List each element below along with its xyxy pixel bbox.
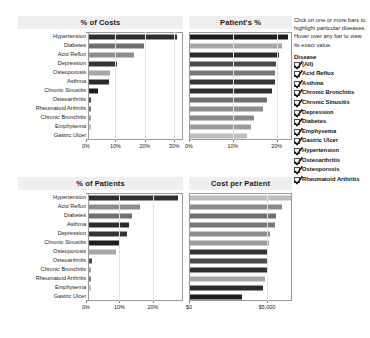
checkbox-checked-icon[interactable]: [294, 177, 300, 183]
legend-item-emphysema[interactable]: Emphysema: [294, 127, 370, 137]
chart-row[interactable]: Acid Reflux: [189, 229, 292, 238]
chart-row[interactable]: Chronic Sinusitis: [189, 292, 292, 301]
chart-bar[interactable]: [190, 240, 269, 245]
chart-row[interactable]: Diabetes: [18, 41, 183, 50]
chart-row[interactable]: Chronic Sinusitis: [18, 86, 183, 95]
legend-item-acid-reflux[interactable]: Acid Reflux: [294, 69, 370, 79]
legend-item-chronic-bronchitis[interactable]: Chronic Bronchitis: [294, 89, 370, 99]
chart-bar[interactable]: [190, 52, 279, 57]
chart-bar[interactable]: [89, 79, 109, 84]
chart-bar[interactable]: [89, 88, 98, 93]
chart-row[interactable]: Depression: [189, 247, 292, 256]
chart-row[interactable]: Depression: [18, 229, 183, 238]
chart-bar[interactable]: [190, 258, 268, 263]
chart-bar[interactable]: [190, 106, 263, 111]
checkbox-checked-icon[interactable]: [294, 100, 300, 106]
chart-bar[interactable]: [190, 267, 267, 272]
chart-row[interactable]: Osteoporosis: [189, 274, 292, 283]
chart-bar[interactable]: [190, 133, 247, 138]
chart-bar[interactable]: [89, 258, 92, 263]
legend-item-depression[interactable]: Depression: [294, 108, 370, 118]
chart-row[interactable]: Chronic Bronchitis: [189, 238, 292, 247]
checkbox-checked-icon[interactable]: [294, 138, 300, 144]
chart-bar[interactable]: [89, 106, 91, 111]
legend-item-rheumatoid-arthritis[interactable]: Rheumatoid Arthritis: [294, 175, 370, 185]
chart-bar[interactable]: [89, 267, 91, 272]
legend-item-chronic-sinusitis[interactable]: Chronic Sinusitis: [294, 98, 370, 108]
chart-row[interactable]: Gastric Ulcer: [18, 131, 183, 140]
chart-row[interactable]: Gastric Ulcer: [189, 202, 292, 211]
checkbox-checked-icon[interactable]: [294, 62, 300, 68]
checkbox-checked-icon[interactable]: [294, 110, 300, 116]
chart-bar[interactable]: [89, 43, 144, 48]
chart-bar[interactable]: [89, 249, 116, 254]
chart-bar[interactable]: [89, 213, 132, 218]
chart-row[interactable]: Asthma: [189, 283, 292, 292]
chart-bar[interactable]: [89, 52, 134, 57]
legend-item-all[interactable]: (All): [294, 60, 370, 70]
chart-bar[interactable]: [89, 97, 91, 102]
checkbox-checked-icon[interactable]: [294, 81, 300, 87]
chart-row[interactable]: Osteoarthritis: [189, 256, 292, 265]
chart-bar[interactable]: [190, 88, 272, 93]
chart-row[interactable]: Diabetes: [18, 211, 183, 220]
chart-bar[interactable]: [190, 97, 267, 102]
chart-row[interactable]: Osteoporosis: [18, 247, 183, 256]
chart-bar[interactable]: [190, 285, 263, 290]
legend-item-asthma[interactable]: Asthma: [294, 79, 370, 89]
chart-bar[interactable]: [89, 61, 117, 66]
chart-row[interactable]: Asthma: [18, 220, 183, 229]
chart-row[interactable]: Rheumatoid Arthritis: [189, 220, 292, 229]
chart-bar[interactable]: [190, 294, 242, 299]
chart-bar[interactable]: [190, 204, 282, 209]
checkbox-checked-icon[interactable]: [294, 71, 300, 77]
chart-row[interactable]: Emphysema: [18, 283, 183, 292]
chart-row[interactable]: Acid Reflux: [18, 202, 183, 211]
chart-row[interactable]: Hypertension: [18, 32, 183, 41]
chart-row[interactable]: Hypertension: [189, 265, 292, 274]
chart-bar[interactable]: [190, 249, 268, 254]
chart-bar[interactable]: [190, 115, 254, 120]
chart-bar[interactable]: [89, 195, 178, 200]
chart-bar[interactable]: [190, 231, 270, 236]
chart-row[interactable]: Chronic Bronchitis: [18, 265, 183, 274]
chart-bar[interactable]: [89, 276, 91, 281]
chart-row[interactable]: Hypertension: [18, 193, 183, 202]
chart-bar[interactable]: [89, 204, 140, 209]
chart-bar[interactable]: [89, 240, 119, 245]
legend-item-osteoarthritis[interactable]: Osteoarthritis: [294, 156, 370, 166]
chart-row[interactable]: Emphysema: [189, 193, 292, 202]
checkbox-checked-icon[interactable]: [294, 119, 300, 125]
chart-bar[interactable]: [89, 34, 177, 39]
chart-row[interactable]: Acid Reflux: [18, 50, 183, 59]
chart-row[interactable]: Rheumatoid Arthritis: [18, 274, 183, 283]
chart-row[interactable]: Osteoarthritis: [18, 256, 183, 265]
checkbox-checked-icon[interactable]: [294, 148, 300, 154]
chart-bar[interactable]: [89, 124, 91, 129]
chart-bar[interactable]: [190, 43, 282, 48]
chart-bar[interactable]: [89, 285, 91, 290]
checkbox-checked-icon[interactable]: [294, 167, 300, 173]
chart-bar[interactable]: [190, 213, 276, 218]
chart-bar[interactable]: [190, 124, 251, 129]
chart-row[interactable]: Rheumatoid Arthritis: [18, 104, 183, 113]
chart-row[interactable]: Chronic Sinusitis: [18, 238, 183, 247]
checkbox-checked-icon[interactable]: [294, 90, 300, 96]
chart-row[interactable]: Chronic Bronchitis: [18, 113, 183, 122]
checkbox-checked-icon[interactable]: [294, 129, 300, 135]
chart-bar[interactable]: [190, 222, 275, 227]
legend-item-gastric-ulcer[interactable]: Gastric Ulcer: [294, 137, 370, 147]
chart-row[interactable]: Emphysema: [18, 122, 183, 131]
chart-bar[interactable]: [89, 70, 110, 75]
chart-bar[interactable]: [89, 115, 91, 120]
chart-bar[interactable]: [190, 34, 288, 39]
chart-bar[interactable]: [89, 231, 127, 236]
chart-bar[interactable]: [190, 276, 265, 281]
legend-item-diabetes[interactable]: Diabetes: [294, 117, 370, 127]
chart-row[interactable]: Diabetes: [189, 211, 292, 220]
legend-item-osteoporosis[interactable]: Osteoporosis: [294, 165, 370, 175]
chart-row[interactable]: Osteoporosis: [18, 68, 183, 77]
chart-row[interactable]: Asthma: [18, 77, 183, 86]
chart-bar[interactable]: [89, 222, 129, 227]
chart-bar[interactable]: [190, 195, 291, 200]
